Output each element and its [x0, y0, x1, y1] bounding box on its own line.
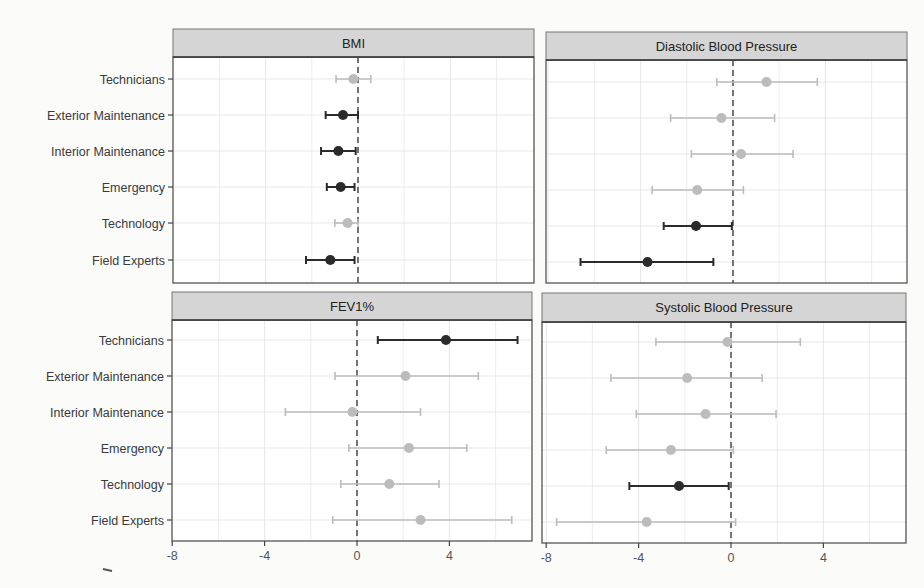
x-tick-label: 0: [354, 549, 361, 563]
panel-systolic-blood-pressure: Systolic Blood Pressure: [542, 293, 906, 543]
y-axis-label: Interior Maintenance: [50, 406, 164, 420]
facet-panels: BMIDiastolic Blood PressureFEV1%Systolic…: [172, 29, 907, 543]
point-estimate: [416, 515, 426, 525]
point-estimate: [642, 517, 652, 527]
panel-bmi: BMI: [173, 29, 534, 283]
point-estimate: [347, 407, 357, 417]
x-tick-label: 4: [820, 551, 827, 565]
point-estimate: [343, 218, 353, 228]
point-estimate: [682, 373, 692, 383]
point-estimate: [761, 77, 771, 87]
y-axis-label: Exterior Maintenance: [46, 370, 164, 384]
y-axis-label: Emergency: [101, 442, 165, 456]
point-estimate: [333, 146, 343, 156]
y-axis-label: Technicians: [99, 334, 164, 348]
point-estimate: [336, 182, 346, 192]
point-estimate: [691, 221, 701, 231]
forest-plot-chart: BMIDiastolic Blood PressureFEV1%Systolic…: [0, 0, 924, 588]
panel-fev1: FEV1%: [172, 292, 532, 541]
scan-artifact-mark: [103, 569, 112, 571]
point-estimate: [401, 371, 411, 381]
point-estimate: [404, 443, 414, 453]
facet-title: Diastolic Blood Pressure: [656, 39, 798, 54]
panel-background: [546, 60, 907, 283]
facet-title: FEV1%: [330, 299, 375, 314]
y-axis-label: Field Experts: [91, 514, 164, 528]
x-tick-label: -4: [259, 549, 270, 563]
y-axis-label: Emergency: [102, 181, 166, 195]
facet-title: BMI: [342, 36, 365, 51]
x-tick-label: 0: [728, 551, 735, 565]
point-estimate: [348, 74, 358, 84]
x-tick-label: -8: [167, 549, 178, 563]
point-estimate: [701, 409, 711, 419]
point-estimate: [643, 257, 653, 267]
point-estimate: [325, 255, 335, 265]
point-estimate: [716, 113, 726, 123]
facet-title: Systolic Blood Pressure: [655, 300, 792, 315]
y-axis-labels: TechniciansExterior MaintenanceInterior …: [46, 73, 173, 528]
x-axis: -8-404-8-404: [167, 541, 827, 565]
y-axis-label: Technicians: [100, 73, 165, 87]
point-estimate: [338, 110, 348, 120]
y-axis-label: Field Experts: [92, 254, 165, 268]
y-axis-label: Technology: [102, 217, 166, 231]
panel-background: [542, 322, 906, 543]
y-axis-label: Technology: [101, 478, 165, 492]
x-tick-label: 4: [446, 549, 453, 563]
point-estimate: [441, 335, 451, 345]
panel-diastolic-blood-pressure: Diastolic Blood Pressure: [546, 32, 907, 283]
point-estimate: [674, 481, 684, 491]
x-tick-label: -4: [633, 551, 644, 565]
point-estimate: [384, 479, 394, 489]
x-tick-label: -8: [541, 551, 552, 565]
point-estimate: [736, 149, 746, 159]
y-axis-label: Exterior Maintenance: [47, 109, 165, 123]
y-axis-label: Interior Maintenance: [51, 145, 165, 159]
point-estimate: [723, 337, 733, 347]
point-estimate: [692, 185, 702, 195]
panel-background: [173, 57, 534, 283]
point-estimate: [666, 445, 676, 455]
panel-background: [172, 320, 532, 541]
